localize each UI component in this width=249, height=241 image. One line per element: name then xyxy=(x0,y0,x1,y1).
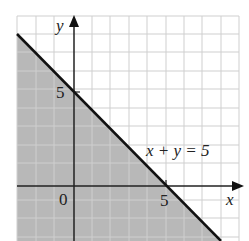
x-axis-label: x xyxy=(225,190,234,209)
y-tick-label: 5 xyxy=(56,83,65,102)
y-axis-arrow-icon xyxy=(69,15,79,27)
equation-label: x + y = 5 xyxy=(145,141,210,160)
x-axis-arrow-icon xyxy=(232,181,244,191)
y-axis-label: y xyxy=(54,16,64,35)
x-tick-label: 5 xyxy=(160,191,169,210)
graph: y x 5 5 0 x + y = 5 xyxy=(0,0,249,241)
origin-label: 0 xyxy=(59,190,68,209)
